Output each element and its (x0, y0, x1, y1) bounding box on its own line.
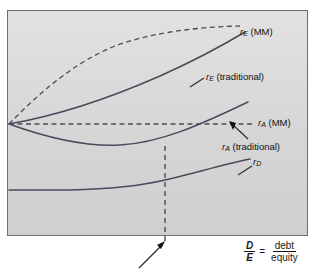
ra-trad-suffix: (traditional) (230, 141, 280, 152)
x-axis-title: D E = debt equity (244, 240, 300, 263)
curve-rd (9, 159, 250, 190)
ra-mm-suffix: (MM) (266, 117, 291, 128)
curve-label-ra-mm: rA (MM) (258, 118, 291, 130)
curve-label-ra-traditional: rA (traditional) (222, 142, 280, 154)
re-mm-suffix: (MM) (248, 26, 273, 37)
optimal-point-arrow (139, 241, 165, 268)
debt-equity-fraction: debt equity (269, 240, 300, 263)
curve-label-rd: rD (253, 157, 261, 169)
equity-word: equity (269, 252, 300, 263)
re-trad-suffix: (traditional) (214, 71, 264, 82)
rd-leader-line (238, 166, 252, 175)
figure-root: rE (MM) rE (traditional) rA (MM) rA (tra… (0, 0, 317, 271)
re-traditional-leader-line (190, 78, 204, 87)
equals-sign: = (259, 246, 265, 257)
de-ratio-fraction: D E (244, 240, 255, 263)
de-denominator: E (244, 252, 255, 263)
debt-word: debt (273, 240, 296, 252)
de-numerator: D (244, 240, 255, 252)
curve-label-re-traditional: rE (traditional) (206, 72, 264, 84)
rd-subscript: D (256, 160, 261, 167)
plot-curves-svg (0, 0, 317, 271)
curve-label-re-mm: rE (MM) (240, 27, 273, 39)
